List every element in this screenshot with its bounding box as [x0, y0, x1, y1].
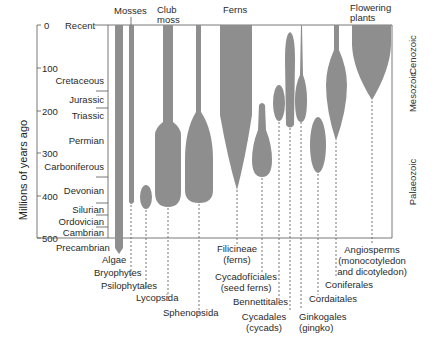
- y-tick-400: 400: [42, 191, 58, 202]
- coniferales-shape: [326, 25, 347, 141]
- label-cycadales: Cycadales: [242, 311, 287, 322]
- label-cycadofiliciales-sub: (seed ferns): [221, 282, 272, 293]
- label-lycopsida: Lycopsida: [136, 292, 179, 303]
- period-ordovician: Ordovician: [59, 216, 104, 227]
- cycadofiliciales-shape: [252, 103, 272, 177]
- top-labels: Mosses Club moss Ferns Flowering plants: [114, 2, 391, 25]
- label-angiosperms-sub: (monocotyledon: [338, 255, 406, 266]
- period-cambrian: Cambrian: [63, 227, 104, 238]
- psilophytales-shape: [140, 185, 152, 209]
- y-tick-300: 300: [42, 148, 58, 159]
- y-tick-100: 100: [42, 63, 58, 74]
- bryophytes-shape: [129, 25, 134, 204]
- label-cycadales-sub: (cycads): [246, 322, 282, 333]
- ginkgo-shape: [295, 25, 307, 122]
- label-psilophytales: Psilophytales: [101, 280, 157, 291]
- period-triassic: Triassic: [72, 110, 105, 121]
- y-axis: 0 100 200 300 400 500: [37, 20, 58, 244]
- label-ginkgo-sub: (gingko): [299, 322, 333, 333]
- lineage-shapes: [115, 25, 391, 254]
- period-jurassic: Jurassic: [69, 94, 104, 105]
- label-filicineae-sub: (ferns): [223, 254, 250, 265]
- label-sphenopsida: Sphenopsida: [163, 307, 219, 318]
- cycadales-shape: [285, 32, 295, 128]
- label-algae: Algae: [102, 254, 126, 265]
- label-mosses: Mosses: [114, 5, 147, 16]
- cordaitales-shape: [310, 117, 326, 173]
- period-recent: Recent: [65, 20, 95, 31]
- bennettitales-shape: [273, 85, 285, 121]
- group-labels: Algae Bryophytes Psilophytales Lycopsida…: [94, 243, 407, 333]
- label-bennettitales: Bennettitales: [233, 296, 288, 307]
- label-filicineae: Filicineae: [217, 243, 257, 254]
- period-cretaceous: Cretaceous: [55, 75, 104, 86]
- algae-shape: [115, 25, 123, 254]
- label-cycadofiliciales: Cycadofíciales: [215, 271, 277, 282]
- period-carboniferous: Carboniferous: [44, 161, 104, 172]
- era-cenozoic: Cenozoic: [407, 35, 418, 75]
- period-precambrian: Precambrian: [56, 242, 110, 253]
- label-club-moss-2: moss: [157, 14, 180, 25]
- y-tick-200: 200: [42, 106, 58, 117]
- period-permian: Permian: [69, 135, 104, 146]
- label-flowering-2: plants: [350, 12, 376, 23]
- label-ginkgo: Ginkogales: [299, 311, 347, 322]
- label-angiosperms: Angiosperms: [344, 244, 400, 255]
- label-coniferales: Coniferales: [325, 279, 373, 290]
- y-tick-0: 0: [44, 20, 49, 31]
- angiosperms-shape: [352, 25, 391, 100]
- label-angiosperms-sub2: and dicotyledon): [337, 266, 407, 277]
- era-palaeozoic: Palaeozoic: [407, 159, 418, 206]
- label-cordaitales: Cordaitales: [309, 293, 357, 304]
- label-bryophytes: Bryophytes: [94, 267, 142, 278]
- y-axis-title: Millions of years ago: [17, 120, 29, 220]
- era-labels: Cenozoic Mesozoic Palaeozoic: [407, 35, 418, 205]
- label-ferns: Ferns: [223, 4, 248, 15]
- lycopsida-shape: [155, 25, 181, 207]
- filicineae-shape: [220, 25, 252, 190]
- period-devonian: Devonian: [64, 185, 104, 196]
- sphenopsida-shape: [185, 25, 213, 203]
- era-mesozoic: Mesozoic: [407, 72, 418, 112]
- period-silurian: Silurian: [72, 204, 104, 215]
- plant-evolution-diagram: Millions of years ago 0 100 200 300 400 …: [0, 0, 438, 337]
- period-labels: Recent Cretaceous Jurassic Triassic Perm…: [44, 20, 110, 253]
